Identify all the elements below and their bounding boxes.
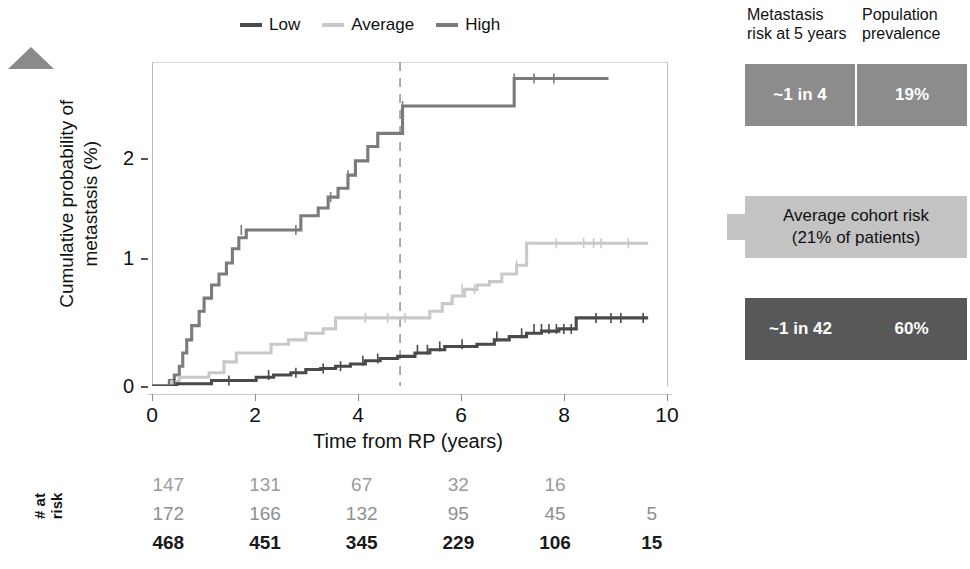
at-risk-cell: 132 bbox=[313, 503, 410, 525]
at-risk-cell: 32 bbox=[410, 474, 507, 496]
panel-marker-triangle-icon bbox=[8, 47, 54, 69]
at-risk-cell: 468 bbox=[120, 532, 217, 554]
callout-high-prevalence-value: 19% bbox=[857, 64, 967, 126]
at-risk-cell: 45 bbox=[507, 503, 604, 525]
at-risk-label: # at risk bbox=[31, 488, 65, 524]
at-risk-cell: 229 bbox=[410, 532, 507, 554]
legend-item-high[interactable]: High bbox=[436, 16, 500, 33]
at-risk-cell: 67 bbox=[313, 474, 410, 496]
at-risk-row-average: 172 166 132 95 45 5 bbox=[120, 499, 700, 528]
figure-root: Low Average High 0 1 2 0 2 4 6 8 10 Cumu… bbox=[0, 0, 970, 569]
at-risk-cell: 147 bbox=[120, 474, 217, 496]
km-curve-high bbox=[152, 78, 608, 386]
callout-header-population-prevalence-line1: Population bbox=[862, 6, 967, 25]
y-axis-title-line2: metastasis (%) bbox=[79, 59, 103, 349]
x-tick-label-4: 4 bbox=[341, 403, 375, 427]
legend-label-high: High bbox=[465, 16, 500, 33]
at-risk-cell: 16 bbox=[507, 474, 604, 496]
callout-average-line1: Average cohort risk bbox=[783, 206, 929, 226]
legend-label-low: Low bbox=[269, 16, 300, 33]
callout-header-population-prevalence: Population prevalence bbox=[852, 6, 967, 44]
callout-pointer-average-icon bbox=[727, 214, 747, 240]
chart-legend: Low Average High bbox=[240, 16, 500, 33]
callout-header-population-prevalence-line2: prevalence bbox=[862, 25, 967, 44]
callout-box-low-risk: ~1 in 42 60% bbox=[745, 298, 967, 360]
x-tick-mark-10 bbox=[667, 394, 668, 401]
legend-label-average: Average bbox=[351, 16, 414, 33]
y-tick-label-1: 1 bbox=[108, 247, 134, 270]
x-axis-title: Time from RP (years) bbox=[258, 430, 558, 453]
callout-low-risk-value: ~1 in 42 bbox=[745, 319, 856, 339]
callout-average-line2: (21% of patients) bbox=[792, 228, 921, 248]
y-tick-label-0: 0 bbox=[108, 375, 134, 398]
callout-header-metastasis-risk-line1: Metastasis bbox=[747, 6, 852, 25]
y-tick-mark-0 bbox=[141, 386, 148, 388]
y-axis-title: Cumulative probability of metastasis (%) bbox=[55, 59, 103, 349]
legend-item-average[interactable]: Average bbox=[322, 16, 414, 33]
x-tick-mark-2 bbox=[255, 394, 256, 401]
callout-low-prevalence-value: 60% bbox=[856, 319, 967, 339]
callout-header-metastasis-risk: Metastasis risk at 5 years bbox=[745, 6, 852, 44]
y-axis-title-line1: Cumulative probability of bbox=[55, 59, 79, 349]
at-risk-cell: 451 bbox=[217, 532, 314, 554]
at-risk-cell: 106 bbox=[507, 532, 604, 554]
x-tick-mark-6 bbox=[461, 394, 462, 401]
x-tick-label-8: 8 bbox=[547, 403, 581, 427]
callout-high-risk-value: ~1 in 4 bbox=[745, 64, 857, 126]
legend-item-low[interactable]: Low bbox=[240, 16, 300, 33]
y-tick-mark-2 bbox=[141, 158, 148, 160]
callout-header-metastasis-risk-line2: risk at 5 years bbox=[747, 25, 852, 44]
at-risk-row-high: 147 131 67 32 16 bbox=[120, 470, 700, 499]
callout-box-high-risk: ~1 in 4 19% bbox=[745, 64, 967, 126]
y-tick-label-2: 2 bbox=[108, 147, 134, 170]
x-tick-label-0: 0 bbox=[135, 403, 169, 427]
x-tick-label-2: 2 bbox=[238, 403, 272, 427]
callout-box-average-risk: Average cohort risk (21% of patients) bbox=[745, 196, 967, 258]
callout-column-headers: Metastasis risk at 5 years Population pr… bbox=[745, 6, 967, 44]
x-tick-label-10: 10 bbox=[650, 403, 684, 427]
at-risk-cell: 5 bbox=[603, 503, 700, 525]
x-tick-mark-8 bbox=[564, 394, 565, 401]
x-tick-mark-0 bbox=[152, 394, 153, 401]
x-tick-label-6: 6 bbox=[444, 403, 478, 427]
at-risk-cell: 15 bbox=[603, 532, 700, 554]
at-risk-cell: 166 bbox=[217, 503, 314, 525]
at-risk-cell: 172 bbox=[120, 503, 217, 525]
y-tick-mark-1 bbox=[141, 258, 148, 260]
at-risk-cell: 131 bbox=[217, 474, 314, 496]
legend-swatch-high bbox=[436, 23, 458, 27]
x-axis-line bbox=[148, 394, 672, 395]
km-curves-canvas bbox=[152, 62, 668, 386]
at-risk-table: 147 131 67 32 16 172 166 132 95 45 5 468… bbox=[120, 470, 700, 557]
x-tick-mark-4 bbox=[358, 394, 359, 401]
at-risk-cell: 345 bbox=[313, 532, 410, 554]
legend-swatch-low bbox=[240, 23, 262, 27]
legend-swatch-average bbox=[322, 23, 344, 27]
at-risk-cell: 95 bbox=[410, 503, 507, 525]
at-risk-row-low: 468 451 345 229 106 15 bbox=[120, 528, 700, 557]
